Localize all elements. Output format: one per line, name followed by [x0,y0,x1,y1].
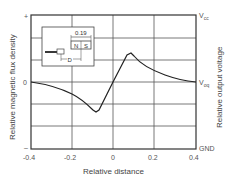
svg-text:–: – [24,144,28,151]
svg-text:Relative output voltage: Relative output voltage [215,46,224,128]
svg-text:GND: GND [199,145,215,152]
svg-text:0.19: 0.19 [75,30,87,36]
svg-text:-0.4: -0.4 [23,154,35,161]
svg-text:0: 0 [111,154,115,161]
svg-text:Relative distance: Relative distance [83,167,144,176]
svg-text:0.2: 0.2 [148,154,158,161]
chart: N S 0.19 D + 0 – -0.4 -0.2 0 0.2 0.4 Vcc… [0,0,233,182]
inset-diagram: N S 0.19 D [42,27,94,66]
svg-text:N: N [74,43,78,49]
svg-text:Voq: Voq [199,79,209,88]
svg-text:D: D [68,57,73,63]
svg-text:-0.2: -0.2 [64,154,76,161]
svg-text:0: 0 [23,79,27,86]
svg-text:S: S [84,43,88,49]
svg-text:Relative magnetic flux density: Relative magnetic flux density [8,34,17,140]
svg-text:Vcc: Vcc [199,12,209,21]
svg-text:+: + [24,13,28,20]
svg-text:0.4: 0.4 [189,154,199,161]
